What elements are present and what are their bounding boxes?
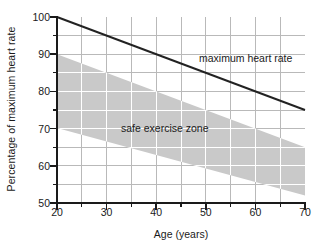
y-axis-title: Percentage of maximum heart rate — [5, 14, 17, 204]
y-tick-label: 60 — [28, 161, 50, 171]
chart-container: maximum heart rate safe exercise zone 10… — [0, 0, 329, 251]
x-tick-label: 60 — [240, 207, 270, 217]
y-tick-label: 80 — [28, 86, 50, 96]
x-tick-label: 40 — [141, 207, 171, 217]
x-tick-label: 20 — [42, 207, 72, 217]
x-axis-tick-labels: 20 30 40 50 60 70 — [0, 207, 329, 223]
y-axis-ticks — [50, 17, 57, 203]
x-tick-label: 30 — [92, 207, 122, 217]
x-tick-label: 50 — [191, 207, 221, 217]
y-tick-label: 70 — [28, 124, 50, 134]
x-axis-title: Age (years) — [57, 228, 305, 240]
y-tick-label: 100 — [28, 12, 50, 22]
y-tick-label: 90 — [28, 49, 50, 59]
x-tick-label: 70 — [290, 207, 320, 217]
annotation-maximum-heart-rate: maximum heart rate — [199, 52, 293, 64]
annotation-safe-exercise-zone: safe exercise zone — [121, 122, 209, 134]
